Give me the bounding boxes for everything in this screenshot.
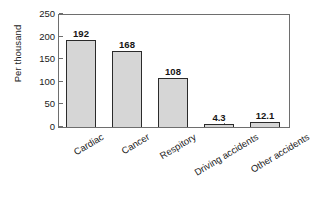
y-tick-100: 100	[59, 81, 63, 82]
bar-chart-figure: Per thousand 0 50 100 150 200 250 192	[0, 0, 324, 204]
bar-value-driving-accidents: 4.3	[212, 112, 225, 123]
plot-area: 0 50 100 150 200 250 192 168 108	[58, 14, 290, 128]
y-tick-label-100: 100	[39, 75, 55, 88]
y-tick-label-0: 0	[50, 120, 55, 133]
y-tick-label-150: 150	[39, 52, 55, 65]
bar-value-other-accidents: 12.1	[256, 110, 275, 121]
y-tick-label-250: 250	[39, 7, 55, 20]
bar-respitory: 108	[158, 78, 188, 127]
x-category-label-respitory: Respitory	[158, 131, 198, 161]
y-tick-label-50: 50	[44, 97, 55, 110]
y-axis-title: Per thousand	[12, 6, 23, 102]
x-category-label-driving-accidents: Driving accidents	[192, 131, 260, 178]
y-tick-label-200: 200	[39, 30, 55, 43]
bar-value-cancer: 168	[119, 39, 135, 50]
x-category-label-cancer: Cancer	[120, 131, 152, 156]
bar-value-cardiac: 192	[73, 28, 89, 39]
bar-cancer: 168	[112, 51, 142, 127]
bar-cardiac: 192	[66, 40, 96, 127]
y-tick-50: 50	[59, 103, 63, 104]
y-tick-150: 150	[59, 58, 63, 59]
y-tick-250: 250	[59, 13, 63, 14]
bar-driving-accidents: 4.3	[204, 124, 234, 127]
bar-other-accidents: 12.1	[250, 122, 280, 128]
y-tick-0: 0	[59, 126, 63, 127]
x-category-label-cardiac: Cardiac	[72, 131, 106, 157]
bar-value-respitory: 108	[165, 66, 181, 77]
y-tick-200: 200	[59, 36, 63, 37]
